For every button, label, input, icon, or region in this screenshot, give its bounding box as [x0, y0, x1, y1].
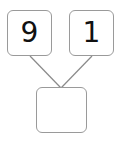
part-value-right: 1: [83, 19, 101, 47]
part-value-left: 9: [21, 19, 39, 47]
whole-box-answer[interactable]: [36, 87, 87, 133]
part-box-right: 1: [69, 10, 114, 56]
part-box-left: 9: [7, 10, 52, 56]
